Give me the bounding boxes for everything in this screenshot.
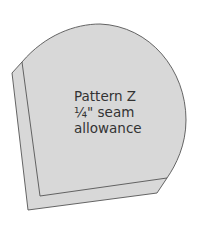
pattern-name: Pattern Z (74, 88, 142, 104)
pattern-label: Pattern Z ¼" seam allowance (74, 88, 142, 136)
seam-allowance-word: allowance (74, 120, 142, 136)
seam-allowance-size: ¼" seam (74, 104, 142, 120)
